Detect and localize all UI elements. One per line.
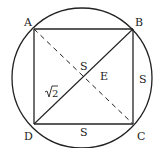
vertex-label-c: C [137,130,145,143]
geometry-diagram: A B C D S E S S 2 [0,0,162,148]
label-s-bottom: S [80,126,88,139]
sqrt2-value: 2 [52,88,58,99]
label-e-center: E [100,70,108,83]
vertex-label-b: B [135,16,143,29]
label-s-right: S [139,73,147,86]
vertex-label-d: D [24,130,33,143]
label-sqrt2: 2 [45,86,58,99]
label-s-upper: S [80,60,88,73]
vertex-label-a: A [23,16,33,29]
